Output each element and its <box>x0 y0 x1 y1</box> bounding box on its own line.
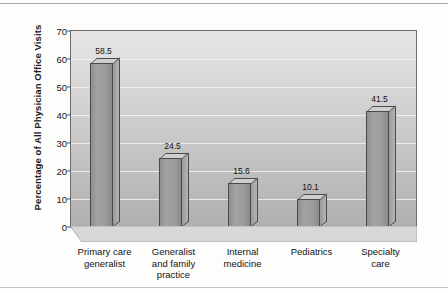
x-axis-category-line: Pediatrics <box>277 246 346 258</box>
x-axis-category-line: Internal <box>208 246 277 258</box>
y-tick-mark-20 <box>67 171 71 172</box>
bar-side-face <box>182 153 189 227</box>
x-axis-labels: Primary caregeneralistGeneralistand fami… <box>70 246 417 290</box>
gridline-30 <box>71 143 416 144</box>
x-axis-category-label: Generalistand familypractice <box>139 246 208 281</box>
bar <box>159 158 182 227</box>
y-tick-label-70: 70 <box>21 26 67 37</box>
gridline-50 <box>71 87 416 88</box>
y-tick-label-0: 0 <box>21 222 67 233</box>
x-axis-category-line: and family <box>139 258 208 270</box>
bar <box>297 199 320 227</box>
x-axis-category-label: Primary caregeneralist <box>70 246 139 269</box>
y-tick-mark-40 <box>67 115 71 116</box>
bar-value-label: 41.5 <box>371 94 388 104</box>
bar <box>366 111 389 227</box>
y-tick-label-30: 30 <box>21 138 67 149</box>
x-axis-category-label: Specialtycare <box>346 246 415 269</box>
y-tick-label-50: 50 <box>21 82 67 93</box>
y-tick-label-20: 20 <box>21 166 67 177</box>
bar <box>228 183 251 227</box>
y-tick-mark-70 <box>67 31 71 32</box>
bar-front-face <box>159 158 182 227</box>
x-axis-category-line: medicine <box>208 258 277 270</box>
plot-floor-shadow <box>70 226 417 242</box>
y-tick-mark-60 <box>67 59 71 60</box>
x-axis-category-label: Internalmedicine <box>208 246 277 269</box>
bar-value-label: 58.5 <box>95 46 112 56</box>
y-tick-label-60: 60 <box>21 54 67 65</box>
y-tick-mark-10 <box>67 199 71 200</box>
x-axis-category-line: Specialty <box>346 246 415 258</box>
bar-side-face <box>389 105 396 227</box>
x-axis-category-line: care <box>346 258 415 270</box>
bar-front-face <box>366 111 389 227</box>
bar-chart-figure: Percentage of All Physician Office Visit… <box>6 14 442 276</box>
y-tick-label-10: 10 <box>21 194 67 205</box>
y-tick-mark-30 <box>67 143 71 144</box>
gridline-40 <box>71 115 416 116</box>
bar-front-face <box>90 63 113 227</box>
bar <box>90 63 113 227</box>
x-axis-category-label: Pediatrics <box>277 246 346 258</box>
bar-front-face <box>228 183 251 227</box>
bar-side-face <box>113 58 120 227</box>
y-tick-mark-50 <box>67 87 71 88</box>
bar-front-face <box>297 199 320 227</box>
x-axis-category-line: Primary care <box>70 246 139 258</box>
y-tick-mark-0 <box>67 227 71 228</box>
plot-area: 010203040506070 58.524.515.610.141.5 <box>70 30 417 228</box>
gridline-60 <box>71 59 416 60</box>
page-rule-top <box>0 3 448 4</box>
bar-value-label: 24.5 <box>164 141 181 151</box>
bar-side-face <box>251 178 258 227</box>
y-tick-label-40: 40 <box>21 110 67 121</box>
x-axis-category-line: Generalist <box>139 246 208 258</box>
x-axis-category-line: practice <box>139 269 208 281</box>
floor-polygon <box>70 226 417 242</box>
bar-value-label: 15.6 <box>233 166 250 176</box>
figure-page: Percentage of All Physician Office Visit… <box>0 0 448 293</box>
bar-value-label: 10.1 <box>302 182 319 192</box>
x-axis-category-line: generalist <box>70 258 139 270</box>
